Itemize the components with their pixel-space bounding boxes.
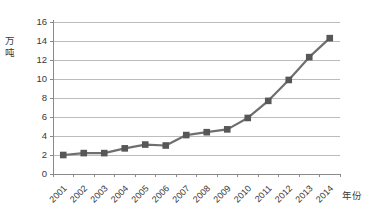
data-series-line [63,38,330,155]
x-tick-label: 2003 [88,183,109,204]
data-point-2007 [183,132,190,139]
x-tick-label: 2014 [314,183,335,204]
x-tick-label: 2011 [253,183,274,204]
data-point-2002 [80,150,87,157]
y-tick-label: 6 [42,111,47,122]
x-tick-label: 2004 [109,183,130,204]
y-tick-label: 0 [42,168,47,179]
y-tick-label: 12 [36,54,47,65]
data-point-2006 [162,142,169,149]
y-tick-label: 8 [42,92,47,103]
data-point-2003 [101,150,108,157]
y-axis-title: 万吨 [2,36,16,60]
x-tick-label: 2006 [150,183,171,204]
data-point-2011 [265,98,272,105]
x-tick-label: 2010 [232,183,253,204]
x-tick-labels: 2001200220032004200520062007200820092010… [47,183,335,204]
data-point-2013 [306,54,313,61]
chart-container: 0246810121416200120022003200420052006200… [0,0,369,224]
x-tick-label: 2008 [191,183,212,204]
data-point-2009 [224,126,231,133]
y-tick-label: 10 [36,73,47,84]
y-tick-label: 2 [42,149,47,160]
x-axis-title: 年份 [342,188,362,202]
data-point-2008 [203,129,210,136]
x-tick-label: 2013 [293,183,314,204]
y-tick-labels: 0246810121416 [36,16,53,179]
y-tick-label: 4 [42,130,47,141]
data-point-2001 [60,152,67,159]
data-series-markers [60,35,333,158]
data-point-2004 [121,145,128,152]
x-tick-label: 2009 [211,183,232,204]
data-point-2012 [285,77,292,84]
data-point-2010 [244,115,251,122]
x-tick-label: 2002 [68,183,89,204]
line-chart: 0246810121416200120022003200420052006200… [0,0,369,224]
gridlines [53,22,340,155]
x-tick-label: 2001 [47,183,68,204]
data-point-2014 [326,35,333,42]
x-tick-label: 2007 [170,183,191,204]
y-tick-label: 14 [36,35,47,46]
x-tick-label: 2012 [273,183,294,204]
axes [53,20,340,174]
data-point-2005 [142,141,149,148]
x-tick-label: 2005 [129,183,150,204]
y-tick-label: 16 [36,16,47,27]
